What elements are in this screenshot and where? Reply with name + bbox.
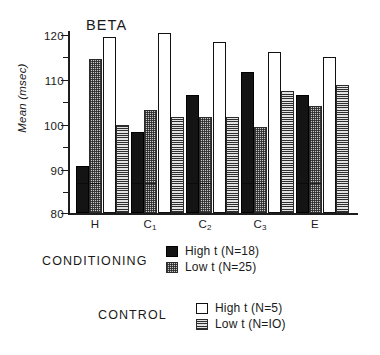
y-tick-mark-115 — [63, 57, 68, 58]
y-tick-mark-85 — [63, 192, 68, 193]
scan-artifact-line — [255, 183, 266, 185]
x-tick-label-c1: C1 — [130, 218, 170, 232]
y-tick-mark-95 — [63, 147, 68, 148]
y-axis-tick-labels: 120 110 100 90 80 — [32, 0, 64, 220]
bar-high-t-control — [213, 42, 226, 213]
y-tick-mark-100 — [61, 125, 68, 126]
y-tick-label-100: 100 — [34, 121, 64, 131]
y-tick-mark-80 — [61, 213, 68, 214]
bar-low-t-conditioning — [254, 127, 267, 213]
bar-group-c3 — [241, 31, 295, 213]
scan-artifact-line — [77, 183, 88, 185]
legend-label: High t (N=5) — [215, 302, 282, 314]
legend-label: Low t (N=IO) — [215, 318, 286, 330]
legend-item-low-t-conditioning: Low t (N=25) — [166, 259, 259, 275]
legend-conditioning: High t (N=18) Low t (N=25) — [166, 243, 259, 275]
bar-low-t-conditioning — [309, 106, 322, 213]
scan-artifact-line — [297, 183, 308, 185]
bar-low-t-control — [226, 117, 239, 213]
x-axis-line — [68, 213, 358, 215]
y-tick-label-110: 110 — [34, 76, 64, 86]
bar-high-t-conditioning — [131, 132, 144, 213]
x-tick-label-e: E — [295, 218, 335, 232]
x-tick-sub: 3 — [262, 223, 266, 232]
bar-group-h — [76, 31, 130, 213]
x-tick-text: C — [253, 218, 262, 230]
bar-high-t-conditioning — [186, 95, 199, 213]
horizontal-stripe-swatch-icon — [196, 319, 208, 330]
beta-bar-chart-figure: Mean (msec) 120 110 100 90 80 BETA H C1 … — [0, 0, 380, 355]
open-white-swatch-icon — [196, 303, 208, 314]
bar-high-t-control — [268, 52, 281, 213]
scan-artifact-line — [187, 183, 198, 185]
y-tick-mark-120 — [61, 35, 68, 36]
bar-low-t-conditioning — [89, 59, 102, 213]
x-tick-text: C — [198, 218, 207, 230]
x-tick-sub: 2 — [207, 223, 211, 232]
bar-low-t-conditioning — [199, 117, 212, 213]
bar-low-t-control — [281, 91, 294, 213]
scan-artifact-line — [310, 183, 321, 185]
x-tick-text: C — [143, 218, 152, 230]
bar-low-t-control — [171, 117, 184, 213]
y-tick-mark-90 — [61, 170, 68, 171]
bar-high-t-control — [158, 33, 171, 213]
scan-artifact-line — [242, 183, 253, 185]
scan-artifact-line — [90, 183, 101, 185]
checkered-gray-swatch-icon — [166, 262, 178, 273]
x-tick-label-h: H — [75, 218, 115, 232]
y-tick-label-90: 90 — [34, 166, 64, 176]
bar-high-t-control — [323, 57, 336, 213]
legend-label: High t (N=18) — [185, 245, 259, 257]
bar-group-c2 — [186, 31, 240, 213]
bar-group-e — [296, 31, 350, 213]
bar-high-t-control — [103, 37, 116, 213]
legend-control: High t (N=5) Low t (N=IO) — [196, 300, 286, 332]
bar-high-t-conditioning — [241, 72, 254, 213]
scan-artifact-line — [200, 183, 211, 185]
plot-area — [70, 31, 358, 213]
bar-low-t-control — [116, 125, 129, 213]
y-tick-mark-105 — [63, 102, 68, 103]
legend-item-high-t-control: High t (N=5) — [196, 300, 286, 316]
scan-artifact-line — [132, 183, 143, 185]
x-tick-text: E — [311, 218, 319, 230]
x-tick-sub: 1 — [152, 223, 156, 232]
x-tick-text: H — [91, 218, 100, 230]
y-axis-label: Mean (msec) — [16, 43, 28, 153]
bar-low-t-conditioning — [144, 110, 157, 213]
bar-high-t-conditioning — [296, 95, 309, 213]
y-tick-mark-110 — [61, 80, 68, 81]
solid-black-swatch-icon — [166, 246, 178, 257]
bar-low-t-control — [336, 85, 349, 213]
legend-item-low-t-control: Low t (N=IO) — [196, 316, 286, 332]
legend-label: Low t (N=25) — [185, 261, 256, 273]
y-tick-label-80: 80 — [34, 209, 64, 219]
legend-item-high-t-conditioning: High t (N=18) — [166, 243, 259, 259]
bar-high-t-conditioning — [76, 166, 89, 213]
x-tick-label-c2: C2 — [185, 218, 225, 232]
scan-artifact-line — [145, 183, 156, 185]
legend-heading-conditioning: CONDITIONING — [42, 254, 148, 268]
y-tick-label-120: 120 — [34, 31, 64, 41]
legend-heading-control: CONTROL — [98, 308, 167, 322]
bar-group-c1 — [131, 31, 185, 213]
x-tick-label-c3: C3 — [240, 218, 280, 232]
